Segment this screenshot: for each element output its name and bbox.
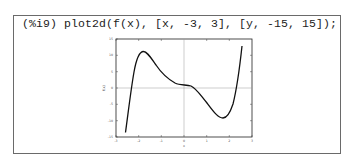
svg-text:0: 0	[183, 139, 185, 143]
svg-text:-10: -10	[108, 119, 113, 123]
svg-text:3: 3	[251, 139, 253, 143]
svg-text:2: 2	[228, 139, 230, 143]
svg-text:-3: -3	[114, 139, 117, 143]
svg-text:15: 15	[109, 37, 113, 41]
svg-text:-5: -5	[110, 102, 113, 106]
input-line[interactable]: (%i9) plot2d(f(x), [x, -3, 3], [y, -15, …	[22, 17, 337, 30]
svg-text:5: 5	[111, 70, 113, 74]
svg-text:0: 0	[111, 86, 113, 90]
x-tick-labels: -3 -2 -1 0 1 2 3	[114, 139, 253, 143]
svg-text:10: 10	[109, 53, 113, 57]
input-prompt: (%i9)	[22, 17, 57, 30]
x-axis-label: x	[183, 144, 185, 148]
plot-svg: -3 -2 -1 0 1 2 3 15 10 5 0 -5 -10 -15 x …	[100, 34, 262, 156]
svg-text:-15: -15	[108, 135, 113, 139]
svg-text:-1: -1	[160, 139, 163, 143]
y-tick-labels: 15 10 5 0 -5 -10 -15	[108, 37, 113, 139]
svg-text:1: 1	[206, 139, 208, 143]
input-command[interactable]: plot2d(f(x), [x, -3, 3], [y, -15, 15]);	[64, 17, 337, 30]
y-axis-label: f(x)	[102, 84, 106, 91]
plot-figure: -3 -2 -1 0 1 2 3 15 10 5 0 -5 -10 -15 x …	[100, 34, 262, 156]
svg-text:-2: -2	[137, 139, 140, 143]
